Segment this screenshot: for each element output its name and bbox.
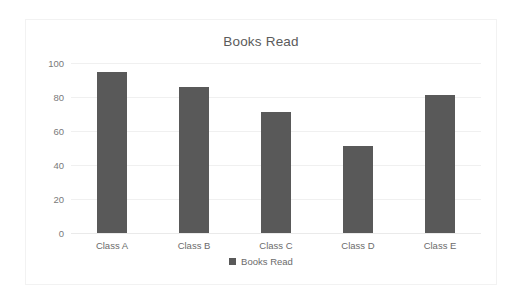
legend-label: Books Read xyxy=(241,256,293,267)
x-axis-tick-label: Class A xyxy=(96,240,128,251)
bar[interactable] xyxy=(97,72,127,234)
y-axis-tick-label: 20 xyxy=(53,194,64,205)
y-axis-tick-label: 80 xyxy=(53,92,64,103)
plot-area: 020406080100 Class AClass BClass CClass … xyxy=(71,63,481,233)
bar[interactable] xyxy=(343,146,373,233)
bar[interactable] xyxy=(425,95,455,233)
gridline: 0 xyxy=(71,233,481,234)
x-axis-tick-label: Class E xyxy=(424,240,457,251)
chart-title: Books Read xyxy=(26,34,496,49)
bar-slot: Class C xyxy=(235,63,317,233)
bar-slot: Class D xyxy=(317,63,399,233)
y-axis-tick-label: 0 xyxy=(59,228,64,239)
x-axis-tick-label: Class B xyxy=(178,240,211,251)
x-axis-tick-label: Class D xyxy=(341,240,374,251)
bar-slot: Class A xyxy=(71,63,153,233)
bar-series: Class AClass BClass CClass DClass E xyxy=(71,63,481,233)
bar[interactable] xyxy=(179,87,209,233)
y-axis-tick-label: 100 xyxy=(48,58,64,69)
y-axis-tick-label: 60 xyxy=(53,126,64,137)
chart-legend: Books Read xyxy=(26,256,496,267)
y-axis-tick-label: 40 xyxy=(53,160,64,171)
bar-slot: Class E xyxy=(399,63,481,233)
bar[interactable] xyxy=(261,112,291,233)
bar-slot: Class B xyxy=(153,63,235,233)
legend-swatch-icon xyxy=(229,258,236,265)
x-axis-tick-label: Class C xyxy=(259,240,292,251)
chart-container[interactable]: Books Read 020406080100 Class AClass BCl… xyxy=(25,19,497,285)
